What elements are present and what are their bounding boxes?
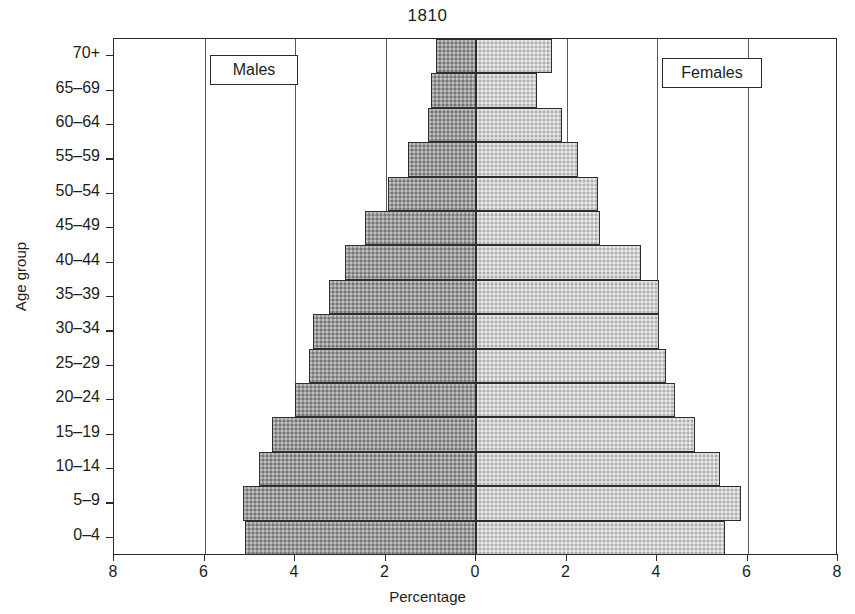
y-tick (106, 193, 113, 194)
bar-row (114, 383, 836, 417)
bar-male-5-9 (243, 486, 476, 520)
plot-area (113, 38, 837, 554)
bar-male-25-29 (309, 349, 476, 383)
bar-female-15-19 (476, 417, 695, 451)
bar-male-20-24 (295, 383, 476, 417)
legend-males: Males (210, 55, 298, 85)
x-tick (656, 554, 657, 561)
x-tick (747, 554, 748, 561)
bar-male-35-39 (329, 280, 476, 314)
bar-male-60-64 (428, 108, 476, 142)
bar-male-55-59 (408, 142, 476, 176)
x-tick (113, 554, 114, 561)
bar-row (114, 452, 836, 486)
y-tick (106, 537, 113, 538)
x-tick-label: 4 (636, 563, 676, 581)
x-tick-label: 8 (817, 563, 855, 581)
y-tick (106, 227, 113, 228)
x-tick (837, 554, 838, 561)
bar-row (114, 521, 836, 555)
y-tick-label: 5–9 (6, 491, 100, 509)
y-tick (106, 124, 113, 125)
legend-females: Females (662, 58, 762, 88)
y-tick-label: 70+ (6, 44, 100, 62)
bar-male-45-49 (365, 211, 476, 245)
x-tick (204, 554, 205, 561)
bar-female-65-69 (476, 73, 537, 107)
y-tick-label: 55–59 (6, 147, 100, 165)
bar-row (114, 280, 836, 314)
y-tick (106, 296, 113, 297)
population-pyramid-figure: 1810 864202468 Percentage 0–45–910–1415–… (0, 0, 855, 614)
bar-female-5-9 (476, 486, 741, 520)
y-tick-label: 25–29 (6, 354, 100, 372)
bar-male-30-34 (313, 314, 476, 348)
y-tick (106, 262, 113, 263)
bar-female-55-59 (476, 142, 578, 176)
x-tick-label: 0 (455, 563, 495, 581)
bar-row (114, 142, 836, 176)
bar-male-10-14 (259, 452, 476, 486)
bar-female-70+ (476, 39, 552, 73)
y-axis-title: Age group (12, 217, 29, 337)
y-tick-label: 10–14 (6, 457, 100, 475)
y-tick (106, 399, 113, 400)
y-tick-label: 60–64 (6, 113, 100, 131)
y-tick (106, 158, 113, 159)
y-tick (106, 55, 113, 56)
bar-female-20-24 (476, 383, 675, 417)
bar-female-0-4 (476, 521, 725, 555)
y-tick-label: 15–19 (6, 423, 100, 441)
x-tick (566, 554, 567, 561)
y-tick-label: 50–54 (6, 182, 100, 200)
bar-male-40-44 (345, 245, 476, 279)
x-tick (385, 554, 386, 561)
x-axis-title: Percentage (0, 588, 855, 605)
bar-male-0-4 (245, 521, 476, 555)
bar-female-35-39 (476, 280, 659, 314)
bar-male-65-69 (431, 73, 476, 107)
x-tick-label: 2 (546, 563, 586, 581)
bar-row (114, 349, 836, 383)
x-tick-label: 6 (184, 563, 224, 581)
bar-row (114, 486, 836, 520)
bar-male-70+ (436, 39, 476, 73)
x-tick (294, 554, 295, 561)
bar-row (114, 417, 836, 451)
chart-title: 1810 (0, 6, 855, 26)
bar-female-10-14 (476, 452, 720, 486)
bar-female-60-64 (476, 108, 562, 142)
x-tick-label: 2 (365, 563, 405, 581)
bar-female-40-44 (476, 245, 641, 279)
bar-male-15-19 (272, 417, 476, 451)
y-tick-label: 65–69 (6, 79, 100, 97)
bars-container (114, 39, 836, 554)
bar-row (114, 211, 836, 245)
x-tick-label: 8 (93, 563, 133, 581)
y-tick-label: 0–4 (6, 526, 100, 544)
bar-female-25-29 (476, 349, 666, 383)
y-tick (106, 90, 113, 91)
bar-female-45-49 (476, 211, 600, 245)
y-tick (106, 434, 113, 435)
bar-row (114, 314, 836, 348)
y-tick (106, 468, 113, 469)
x-tick (475, 554, 476, 561)
y-tick-label: 20–24 (6, 388, 100, 406)
x-tick-label: 6 (727, 563, 767, 581)
bar-female-50-54 (476, 177, 598, 211)
y-tick (106, 330, 113, 331)
bar-row (114, 177, 836, 211)
y-tick (106, 502, 113, 503)
bar-male-50-54 (388, 177, 476, 211)
x-tick-label: 4 (274, 563, 314, 581)
bar-row (114, 108, 836, 142)
bar-row (114, 245, 836, 279)
bar-female-30-34 (476, 314, 659, 348)
y-tick (106, 365, 113, 366)
